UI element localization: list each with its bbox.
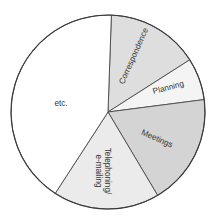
label-telephoning-line2: e-mailing <box>94 154 103 188</box>
label-telephoning-line1: Telephoning/ <box>103 148 112 195</box>
label-etc: etc. <box>54 99 67 108</box>
pie-chart: Correspondence Planning Meetings Telepho… <box>0 0 215 224</box>
